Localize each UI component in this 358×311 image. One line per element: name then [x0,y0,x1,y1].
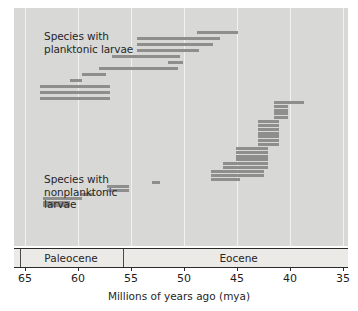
species-range-bar [70,79,83,82]
species-range-bar [211,178,241,181]
species-range-bar [152,181,159,184]
x-tick-35 [343,267,344,271]
epoch-divider [123,249,124,267]
x-tick-label-65: 65 [18,272,32,285]
species-range-bar [258,143,279,146]
species-range-bar [274,105,288,108]
species-range-bar [223,162,268,165]
species-range-bar [99,67,177,70]
x-tick-40 [290,267,291,271]
epoch-eocene: Eocene [123,249,355,267]
species-range-bar [82,73,105,76]
x-tick-65 [25,267,26,271]
nonplanktonic-label-line: larvae [44,198,117,211]
gridline-40mya [290,8,291,246]
nonplanktonic-label-line: nonplanktonic [44,186,117,199]
species-range-bar [137,49,198,52]
x-tick-label-55: 55 [124,272,138,285]
species-range-bar [112,55,180,58]
species-range-bar [258,132,279,135]
species-range-bar [197,31,238,34]
species-range-bar [258,128,279,131]
species-range-bar [211,174,264,177]
species-range-bar [211,170,264,173]
gridline-65mya [25,8,26,246]
species-range-bar [274,101,304,104]
planktonic-label-line: planktonic larvae [44,43,133,56]
plot-area: Species withplanktonic larvaeSpecies wit… [14,8,348,246]
species-range-bar [274,112,288,115]
x-tick-label-35: 35 [336,272,350,285]
x-axis-line [14,267,348,268]
species-range-bar [236,155,268,158]
species-range-bar [274,116,288,119]
x-tick-50 [184,267,185,271]
x-tick-45 [237,267,238,271]
x-axis-title: Millions of years ago (mya) [0,290,358,302]
species-range-bar [223,166,268,169]
epoch-band: PaleoceneEocene [14,248,348,267]
species-range-bar [137,43,212,46]
species-duration-chart: Species withplanktonic larvaeSpecies wit… [0,0,358,311]
epoch-paleocene: Paleocene [20,249,123,267]
species-range-bar [258,135,279,138]
x-tick-60 [78,267,79,271]
species-range-bar [236,151,268,154]
species-range-bar [258,120,279,123]
x-tick-label-45: 45 [230,272,244,285]
species-range-bar [274,109,288,112]
species-range-bar [137,37,220,40]
planktonic-label-line: Species with [44,30,133,43]
species-range-bar [258,124,279,127]
gridline-35mya [343,8,344,246]
x-tick-label-50: 50 [177,272,191,285]
x-tick-label-60: 60 [71,272,85,285]
species-range-bar [258,139,279,142]
species-range-bar [168,61,183,64]
nonplanktonic-label: Species withnonplanktoniclarvae [44,173,117,211]
x-tick-label-40: 40 [283,272,297,285]
species-range-bar [40,97,110,100]
nonplanktonic-label-line: Species with [44,173,117,186]
species-range-bar [236,147,268,150]
species-range-bar [236,158,268,161]
x-tick-55 [131,267,132,271]
planktonic-label: Species withplanktonic larvae [44,30,133,55]
species-range-bar [40,85,110,88]
species-range-bar [40,91,110,94]
epoch-divider [20,249,21,267]
gridline-45mya [237,8,238,246]
